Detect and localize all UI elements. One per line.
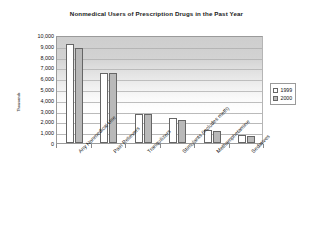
- legend-label: 1999: [281, 87, 293, 93]
- chart-title: Nonmedical Users of Prescription Drugs i…: [0, 10, 313, 17]
- gridline: [57, 80, 262, 81]
- series-1999-swatch: [273, 88, 278, 93]
- bar-2000-tranquilizers: [144, 114, 152, 143]
- gridline: [57, 59, 262, 60]
- x-axis-category-label: Pain Relievers: [112, 150, 116, 154]
- y-axis-tick-label: 2,000: [10, 119, 54, 125]
- y-axis-tick-label: 9,000: [10, 44, 54, 50]
- x-axis-tick: [56, 144, 57, 148]
- x-axis-category-label: Sedatives: [250, 150, 254, 154]
- legend-label: 2000: [281, 95, 293, 101]
- series-2000-swatch: [273, 96, 278, 101]
- gridline: [57, 113, 262, 114]
- bar-2000-methamphetamine: [213, 131, 221, 143]
- x-axis-category-label: Tranquilizers: [146, 150, 150, 154]
- y-axis-tick-label: 10,000: [10, 33, 54, 39]
- plot-area: [56, 36, 263, 144]
- y-axis-tick-label: 0: [10, 141, 54, 147]
- bar-chart: Nonmedical Users of Prescription Drugs i…: [0, 0, 313, 236]
- gridline: [57, 102, 262, 103]
- legend: 19992000: [270, 83, 296, 105]
- x-axis-category-label: Methamphetamine: [215, 150, 219, 154]
- bar-2000-pain-relievers: [109, 73, 117, 143]
- y-axis-tick-label: 4,000: [10, 98, 54, 104]
- x-axis-category-label: Stimulants (includes meth): [181, 150, 185, 154]
- bar-2000-stimulants-includes-meth: [178, 120, 186, 143]
- y-axis-tick-label: 5,000: [10, 87, 54, 93]
- bar-2000-any-nonmedical-use: [75, 48, 83, 143]
- legend-entry: 2000: [273, 94, 292, 102]
- bar-1999-sedatives: [238, 135, 246, 143]
- gridline: [57, 69, 262, 70]
- y-axis-tick-label: 6,000: [10, 76, 54, 82]
- y-axis-tick-label: 3,000: [10, 109, 54, 115]
- bar-1999-any-nonmedical-use: [66, 44, 74, 143]
- gridline: [57, 91, 262, 92]
- y-axis-tick-label: 8,000: [10, 55, 54, 61]
- legend-entry: 1999: [273, 86, 292, 94]
- x-axis-category-label: Any Nonmedical Use: [77, 150, 81, 154]
- gridline: [57, 48, 262, 49]
- bar-2000-sedatives: [247, 136, 255, 143]
- gridline: [57, 123, 262, 124]
- y-axis-tick-label: 1,000: [10, 130, 54, 136]
- plot-background-shading: [57, 37, 262, 143]
- y-axis-tick-label: 7,000: [10, 65, 54, 71]
